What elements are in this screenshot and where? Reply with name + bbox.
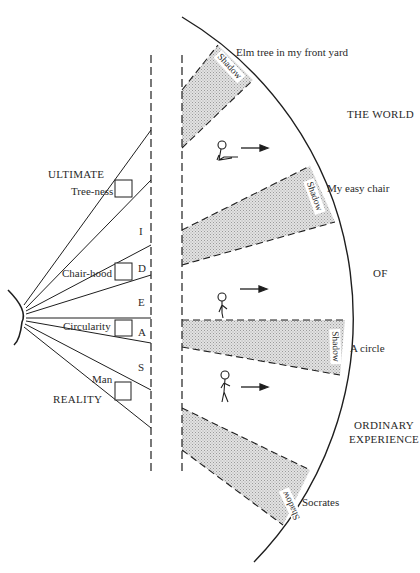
form-box-chair-hood	[115, 263, 132, 280]
divider-letter-a: A	[138, 327, 146, 338]
form-box-man	[115, 382, 131, 400]
title-the-world: THE WORLD	[347, 109, 414, 120]
object-label-socrates: Socrates	[302, 497, 339, 508]
object-label-elm-tree: Elm tree in my front yard	[236, 47, 348, 58]
divider-letter-s: S	[138, 362, 144, 373]
shadow-regions	[182, 45, 345, 525]
label-ultimate: ULTIMATE	[48, 169, 104, 180]
standing-person-icon	[218, 293, 227, 318]
shadow-circle	[182, 320, 345, 375]
divider-letter-e: E	[138, 297, 145, 308]
form-label-man: Man	[92, 374, 112, 385]
form-label-circularity: Circularity	[63, 321, 111, 332]
label-reality: REALITY	[53, 394, 102, 405]
arrow-right-icon	[241, 384, 268, 390]
arrow-right-icon	[241, 145, 268, 151]
object-label-easy-chair: My easy chair	[327, 183, 389, 194]
divider-letter-d: D	[138, 263, 146, 274]
divider-lines	[151, 55, 182, 472]
shadow-label-circle: Shadow	[329, 329, 341, 364]
arrow-right-icon	[240, 286, 267, 292]
form-box-circularity	[115, 320, 132, 336]
form-label-chair-hood: Chair-hood	[62, 268, 112, 279]
form-box-tree-ness	[115, 180, 132, 197]
title-of: OF	[373, 268, 388, 279]
allegory-diagram	[0, 0, 420, 573]
walking-person-icon	[221, 371, 230, 402]
object-label-circle: A circle	[350, 343, 385, 354]
form-boxes	[115, 180, 132, 400]
title-ordinary: ORDINARY	[349, 420, 419, 431]
sitting-person-icon	[217, 141, 238, 160]
figures	[217, 141, 238, 402]
form-label-tree-ness: Tree-ness	[71, 186, 113, 197]
title-experience: EXPERIENCE	[344, 434, 420, 445]
divider-letter-i: I	[139, 226, 143, 237]
eye-arc	[8, 290, 23, 345]
